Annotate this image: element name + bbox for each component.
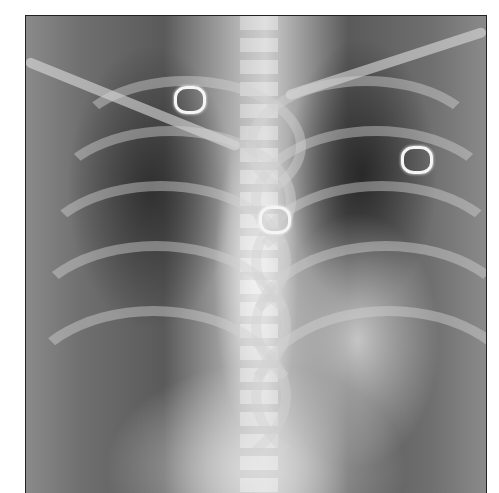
ecg-electrode — [259, 206, 291, 234]
ecg-electrode — [401, 146, 433, 174]
xray-image: Chest X-ray, frontal view, showing ribs,… — [25, 15, 487, 493]
ecg-electrode — [174, 86, 206, 114]
